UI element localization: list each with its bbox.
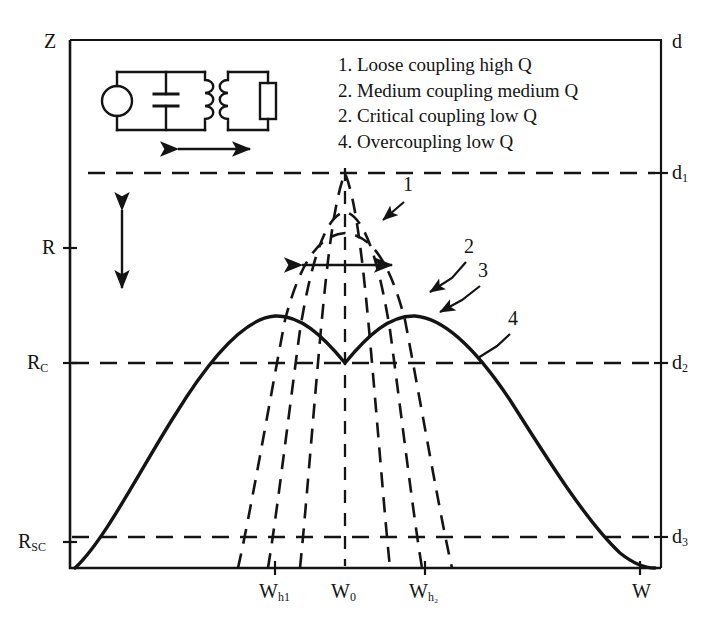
load-resistor-icon [260, 83, 276, 119]
curve-callout-3: 3 [478, 259, 488, 282]
x-axis-label-w0: W0 [331, 580, 356, 605]
legend: 1. Loose coupling high Q 2. Medium coupl… [338, 52, 578, 154]
legend-item-1: 1. Loose coupling high Q [338, 52, 578, 78]
right-label-d: d [672, 30, 682, 53]
leader-line-2 [430, 262, 466, 292]
y-axis-label-rsc: RSC [18, 530, 46, 555]
curve-leader-lines [383, 202, 510, 358]
x-axis-label-wh1: Wh1 [259, 580, 290, 605]
reference-lines [72, 168, 655, 566]
figure-canvas: 1. Loose coupling high Q 2. Medium coupl… [0, 0, 719, 630]
source-icon [102, 86, 132, 116]
leader-line-4 [478, 334, 510, 358]
right-label-d1: d1 [672, 161, 688, 186]
y-axis-label-r: R [42, 236, 55, 259]
right-label-d3: d3 [672, 525, 688, 550]
leader-line-1 [383, 202, 404, 220]
y-axis-label-z: Z [44, 30, 56, 53]
legend-item-4: 4. Overcoupling low Q [338, 129, 578, 155]
x-axis-label-w: W [632, 580, 651, 603]
right-label-d2: d2 [672, 351, 688, 376]
leader-line-3 [440, 286, 480, 312]
primary-coil-icon [205, 72, 213, 130]
curve-4-overcoupling [75, 316, 655, 568]
legend-item-2: 2. Medium coupling medium Q [338, 78, 578, 104]
curve-callout-1: 1 [403, 173, 413, 196]
curve-callout-4: 4 [508, 307, 518, 330]
secondary-coil-icon [220, 72, 228, 130]
coupled-tuned-circuit-schematic [102, 72, 276, 130]
x-axis-label-wh2: Wh₂ [409, 580, 438, 605]
curve-callout-2: 2 [464, 235, 474, 258]
y-axis-label-rc: RC [27, 351, 48, 376]
legend-item-3: 2. Critical coupling low Q [338, 103, 578, 129]
